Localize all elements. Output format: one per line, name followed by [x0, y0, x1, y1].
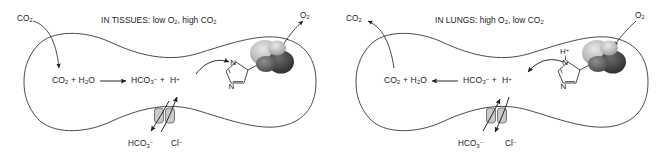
- imidazole-n3-label: N: [229, 82, 235, 91]
- reaction-equation-left-side: CO2 + H2O: [384, 76, 427, 86]
- o2-influx-label: O2: [635, 12, 645, 21]
- chloride-ion-label: Cl−: [505, 140, 516, 149]
- panel-title-tissues: IN TISSUES: low O2, high CO2: [101, 16, 217, 26]
- co2-efflux-label: CO2: [346, 15, 362, 24]
- bicarbonate-ion-label: HCO3−: [128, 140, 153, 149]
- anion-exchanger-transporter: [487, 108, 507, 123]
- reaction-equation-right-side: HCO3− + H+: [131, 76, 180, 86]
- imidazole-n1-label: N: [230, 58, 236, 67]
- panel-lungs: N N: [332, 0, 665, 164]
- panel-title-lungs: IN LUNGS: high O2, low CO2: [435, 16, 544, 26]
- o2-efflux-label: O2: [300, 12, 310, 21]
- bound-proton-label: H+: [560, 48, 569, 56]
- panel-tissues: N N: [0, 0, 333, 164]
- co2-influx-label: CO2: [17, 15, 33, 24]
- bicarbonate-ion-label: HCO3−: [458, 140, 483, 149]
- chloride-ion-label: Cl−: [171, 140, 182, 149]
- chloride-shift-diagram: N N: [0, 0, 665, 164]
- panel-divider: [332, 0, 333, 164]
- reaction-equation-left-side: CO2 + H2O: [52, 76, 95, 86]
- reaction-equation-right-side: HCO3− + H+: [463, 76, 512, 86]
- imidazole-n3-label: N: [561, 82, 567, 91]
